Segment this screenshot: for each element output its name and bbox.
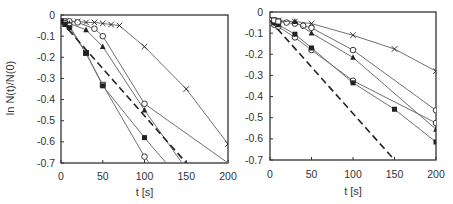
y-tick-label: -0.7	[37, 157, 55, 169]
open-circle-marker-icon	[75, 20, 81, 26]
filled-square-marker-icon	[351, 80, 356, 85]
x-tick-label: 0	[58, 170, 64, 182]
series-reference-dashed	[270, 21, 395, 161]
series-group	[58, 18, 231, 163]
x-tick-label: 100	[136, 170, 154, 182]
x-tick-label: 200	[219, 170, 237, 182]
cross-marker-icon	[392, 46, 398, 52]
x-tick-label: 150	[177, 170, 195, 182]
y-tick-label: 0	[257, 6, 263, 18]
x-tick-label: 150	[386, 168, 404, 180]
series-line	[270, 21, 436, 72]
filled-square-marker-icon	[434, 140, 439, 145]
y-tick-label: -0.1	[245, 27, 263, 39]
chart-canvas: 0-0.1-0.2-0.3-0.4-0.5-0.6-0.705010015020…	[0, 0, 453, 204]
open-circle-marker-icon	[92, 26, 98, 32]
open-circle-marker-icon	[100, 33, 106, 39]
y-tick-label: -0.1	[37, 30, 55, 42]
open-circle-marker-icon	[350, 47, 356, 53]
y-tick-label: -0.2	[245, 48, 263, 60]
y-axis-title: ln N(t)/N(0)	[4, 61, 16, 115]
series-open-square	[59, 19, 150, 163]
series-group	[267, 17, 439, 160]
y-tick-label: -0.5	[245, 111, 263, 123]
x-axis-title: t [s]	[136, 186, 154, 198]
series-open-circle-b	[142, 154, 148, 160]
series-line	[61, 21, 150, 163]
open-square-marker-icon	[276, 19, 281, 24]
chart-panel-left: 0-0.1-0.2-0.3-0.4-0.5-0.6-0.705010015020…	[4, 9, 237, 199]
open-circle-marker-icon	[309, 25, 315, 31]
open-circle-marker-icon	[284, 20, 290, 26]
y-tick-label: -0.5	[37, 114, 55, 126]
series-line	[61, 21, 228, 163]
figure: 0-0.1-0.2-0.3-0.4-0.5-0.6-0.705010015020…	[0, 0, 453, 204]
x-axis-title: t [s]	[344, 185, 362, 197]
series-reference-dashed	[61, 21, 186, 163]
plot-frame	[61, 15, 228, 163]
filled-triangle-marker-icon	[350, 54, 356, 60]
x-tick-label: 200	[427, 168, 445, 180]
series-open-circle-a	[58, 19, 228, 163]
y-tick-label: -0.4	[245, 90, 263, 102]
filled-square-marker-icon	[100, 83, 105, 88]
y-tick-label: -0.3	[37, 72, 55, 84]
cross-marker-icon	[142, 44, 148, 50]
cross-marker-icon	[183, 86, 189, 92]
reference-line	[270, 21, 395, 161]
filled-square-marker-icon	[292, 32, 297, 37]
series-cross	[58, 19, 231, 147]
filled-triangle-marker-icon	[309, 30, 315, 36]
series-line	[61, 21, 166, 163]
open-circle-marker-icon	[433, 108, 439, 114]
filled-square-marker-icon	[84, 51, 89, 56]
x-tick-label: 0	[267, 168, 273, 180]
x-tick-label: 50	[97, 170, 109, 182]
series-filled-square	[59, 19, 167, 163]
y-tick-label: -0.4	[37, 93, 55, 105]
y-tick-label: -0.3	[245, 69, 263, 81]
open-circle-marker-icon	[142, 101, 148, 107]
series-line	[61, 21, 228, 144]
x-tick-label: 100	[344, 168, 362, 180]
x-tick-label: 50	[306, 168, 318, 180]
chart-panel-right: 0-0.1-0.2-0.3-0.4-0.5-0.6-0.705010015020…	[245, 6, 445, 198]
y-tick-label: -0.2	[37, 51, 55, 63]
filled-square-marker-icon	[309, 45, 314, 50]
y-tick-label: -0.7	[245, 154, 263, 166]
filled-square-marker-icon	[392, 107, 397, 112]
open-circle-marker-icon	[433, 120, 439, 126]
open-circle-marker-icon	[142, 154, 148, 160]
filled-square-marker-icon	[67, 25, 72, 30]
y-tick-label: 0	[49, 9, 55, 21]
filled-square-marker-icon	[142, 135, 147, 140]
reference-line	[61, 21, 186, 163]
y-tick-label: -0.6	[245, 132, 263, 144]
y-tick-label: -0.6	[37, 135, 55, 147]
